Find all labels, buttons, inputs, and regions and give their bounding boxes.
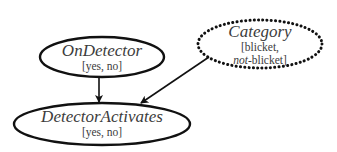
- node-category-label: Category [blicket, not-blicket]: [200, 23, 320, 66]
- node-category-values-line2: not-blicket]: [200, 55, 320, 67]
- node-ondetector-title: OnDetector: [42, 42, 162, 59]
- node-detectoractivates-values: [yes, no]: [22, 127, 182, 139]
- node-category-not-italic: not: [233, 54, 248, 66]
- node-detectoractivates-label: DetectorActivates [yes, no]: [22, 108, 182, 139]
- node-category-values-rest: -blicket]: [248, 54, 287, 66]
- node-category-values-line1: [blicket,: [200, 42, 320, 54]
- node-ondetector-label: OnDetector [yes, no]: [42, 42, 162, 73]
- node-category-title: Category: [200, 23, 320, 40]
- node-detectoractivates-title: DetectorActivates: [22, 108, 182, 125]
- node-ondetector-values: [yes, no]: [42, 61, 162, 73]
